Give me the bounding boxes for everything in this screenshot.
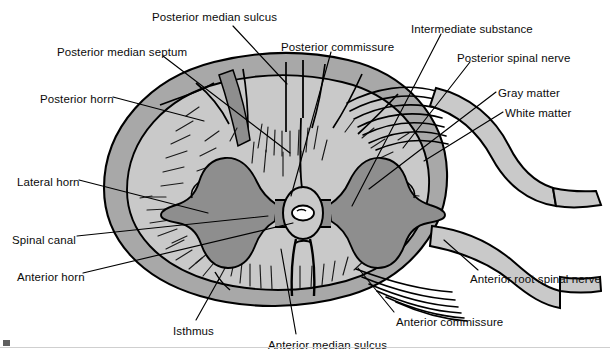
label-gray-matter: Gray matter	[498, 88, 560, 100]
label-isthmus: Isthmus	[173, 326, 214, 338]
label-white-matter: White matter	[505, 108, 571, 120]
spinal-cord-diagram: Posterior median sulcusIntermediate subs…	[0, 0, 610, 357]
label-posterior-spinal-nerve: Posterior spinal nerve	[457, 53, 570, 65]
label-anterior-horn: Anterior horn	[17, 272, 85, 284]
label-posterior-commissure: Posterior commissure	[281, 42, 394, 54]
bottom-rule	[0, 347, 610, 348]
label-lateral-horn: Lateral horn	[17, 177, 80, 189]
corner-artifact	[3, 340, 10, 346]
posterior-spinal-nerve	[430, 88, 556, 206]
label-spinal-canal: Spinal canal	[12, 235, 76, 247]
label-anterior-median-sulcus: Anterior median sulcus	[268, 340, 387, 352]
spinal-canal-lumen	[292, 206, 314, 221]
label-posterior-median-sulcus: Posterior median sulcus	[152, 12, 277, 24]
label-posterior-median-septum: Posterior median septum	[57, 47, 187, 59]
label-anterior-root-spinal-nerve: Anterior root spinal nerve	[470, 274, 601, 286]
anterior-root-spinal-nerve	[430, 226, 560, 308]
label-posterior-horn: Posterior horn	[40, 94, 114, 106]
spinal-canal-structure	[283, 187, 323, 239]
label-anterior-commissure: Anterior commissure	[396, 317, 503, 329]
label-intermediate-substance: Intermediate substance	[411, 24, 533, 36]
